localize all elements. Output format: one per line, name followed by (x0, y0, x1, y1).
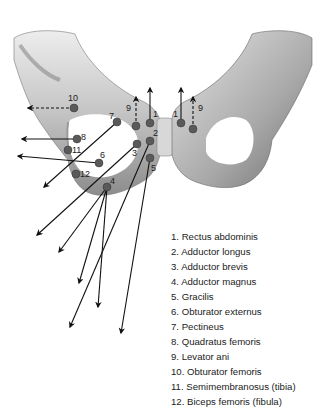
svg-text:7: 7 (109, 111, 114, 121)
svg-text:1: 1 (173, 109, 178, 119)
svg-text:5: 5 (151, 163, 156, 173)
svg-text:10: 10 (68, 93, 78, 103)
marker-12 (72, 170, 80, 178)
marker-11 (64, 146, 72, 154)
marker-6 (95, 159, 103, 167)
pelvis-right-half (172, 31, 312, 188)
marker-9-left (132, 122, 140, 130)
svg-text:9: 9 (126, 103, 131, 113)
legend-item: 7. Pectineus (171, 319, 296, 334)
legend-item: 8. Quadratus femoris (171, 334, 296, 349)
svg-text:12: 12 (80, 169, 90, 179)
marker-10 (70, 104, 78, 112)
svg-text:9: 9 (198, 103, 203, 113)
svg-text:11: 11 (72, 145, 81, 155)
legend-item: 6. Obturator externus (171, 304, 296, 319)
legend-item: 2. Adductor longus (171, 244, 296, 259)
pubic-symphysis (157, 118, 173, 156)
legend-item: 10. Obturator femoris (171, 364, 296, 379)
svg-text:6: 6 (100, 150, 105, 160)
marker-7 (113, 118, 121, 126)
marker-5 (146, 154, 154, 162)
legend-item: 1. Rectus abdominis (171, 229, 296, 244)
legend-item: 12. Biceps femoris (fibula) (171, 394, 296, 409)
legend-item: 3. Adductor brevis (171, 259, 296, 274)
svg-text:2: 2 (153, 128, 158, 138)
legend-item: 5. Gracilis (171, 289, 296, 304)
svg-text:3: 3 (132, 148, 137, 158)
marker-2 (146, 137, 154, 145)
legend-item: 11. Semimembranosus (tibia) (171, 379, 296, 394)
svg-text:1: 1 (153, 109, 158, 119)
marker-1-right (177, 119, 185, 127)
legend-item: 4. Adductor magnus (171, 274, 296, 289)
svg-text:4: 4 (110, 176, 115, 186)
marker-3 (133, 140, 141, 148)
muscle-legend: 1. Rectus abdominis 2. Adductor longus 3… (171, 229, 296, 409)
svg-text:8: 8 (81, 132, 86, 142)
legend-item: 9. Levator ani (171, 349, 296, 364)
marker-9-right (189, 125, 197, 133)
marker-8 (73, 135, 81, 143)
marker-1-left (146, 119, 154, 127)
